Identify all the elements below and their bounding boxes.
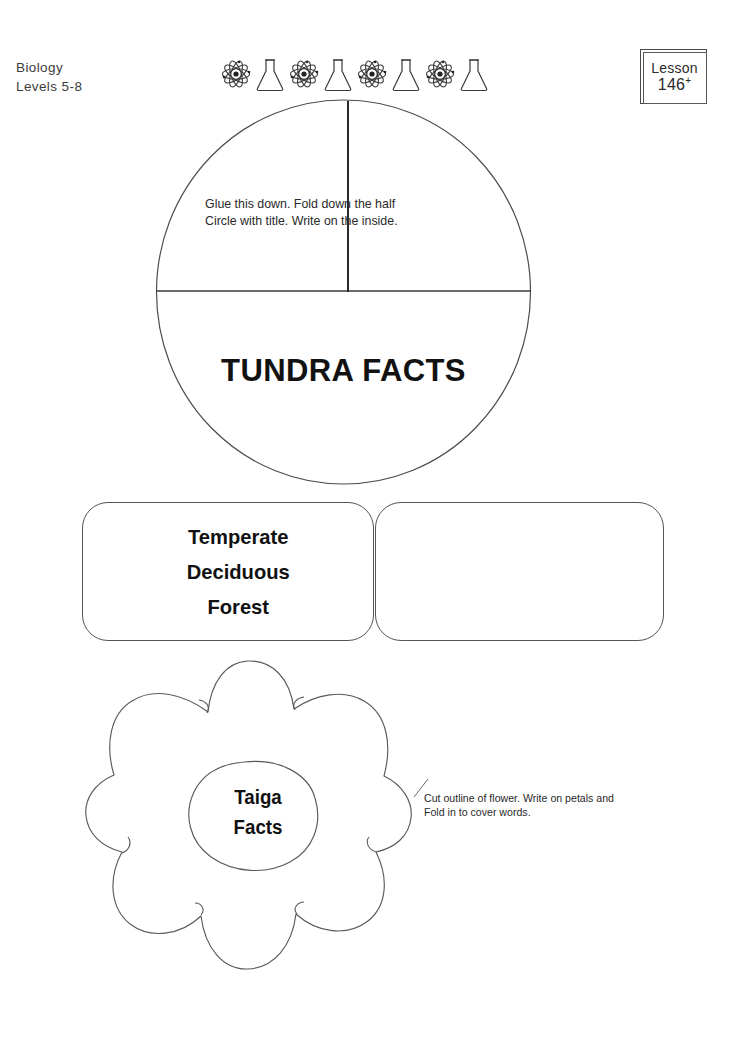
box-left-label: Temperate Deciduous Forest (166, 519, 290, 624)
atom-icon (355, 51, 389, 97)
flower-center-label: Taiga Facts (193, 782, 324, 842)
flower-center-line-1: Taiga (193, 782, 324, 812)
flask-icon (457, 51, 491, 97)
flask-icon (253, 51, 287, 97)
flower-instruction: Cut outline of flower. Write on petals a… (424, 791, 654, 819)
lesson-badge-number: 146+ (658, 76, 691, 94)
lesson-badge-inner: Lesson 146+ (643, 52, 707, 104)
box-left-label-line-1: Temperate (187, 519, 290, 554)
atom-icon (219, 51, 253, 97)
science-icon-strip (219, 50, 491, 98)
circle-instruction-line-1: Glue this down. Fold down the half (205, 196, 445, 213)
circle-outline (155, 99, 532, 487)
worksheet-page: Biology Levels 5-8 (0, 0, 729, 1046)
flask-icon (321, 51, 355, 97)
flower-center-line-2: Facts (193, 812, 324, 842)
circle-instruction-line-2: Circle with title. Write on the inside. (205, 213, 445, 230)
lesson-badge-suffix: + (685, 75, 691, 86)
circle-title: TUNDRA FACTS (161, 352, 527, 389)
atom-icon (287, 51, 321, 97)
box-left-label-line-3: Forest (187, 589, 290, 624)
lesson-badge: Lesson 146+ (640, 49, 707, 104)
header-levels: Levels 5-8 (16, 77, 82, 96)
flask-icon (389, 51, 423, 97)
circle-instruction: Glue this down. Fold down the half Circl… (205, 196, 445, 229)
box-temperate-deciduous-forest[interactable]: Temperate Deciduous Forest (82, 502, 374, 641)
atom-icon (423, 51, 457, 97)
flower-instruction-line-2: Fold in to cover words. (424, 805, 654, 819)
circle-foldable (155, 99, 532, 487)
flower-instruction-line-1: Cut outline of flower. Write on petals a… (424, 791, 654, 805)
header-subject: Biology (16, 58, 82, 77)
box-left-label-line-2: Deciduous (187, 554, 290, 589)
box-blank-right[interactable] (375, 502, 664, 641)
lesson-badge-word: Lesson (651, 61, 697, 76)
header-subject-block: Biology Levels 5-8 (16, 58, 82, 96)
